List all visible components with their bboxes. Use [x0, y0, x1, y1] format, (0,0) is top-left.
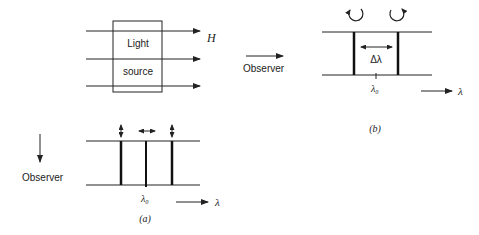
observer-label-a: Observer — [22, 172, 64, 183]
caption-b: (b) — [369, 123, 381, 135]
light-source-box — [113, 21, 162, 92]
lambda-axis-label-a: λ — [214, 196, 220, 208]
circular-polarization-ccw-icon — [349, 9, 363, 21]
longitudinal-spectrum-panel: Observer Δλ λ₀ λ (b) — [243, 9, 463, 135]
lambda0-label-a: λ₀ — [140, 193, 149, 204]
delta-lambda-label: Δλ — [370, 54, 382, 65]
zeeman-effect-diagram: Light source H Observer λ₀ λ (a) Observe… — [0, 0, 479, 235]
transverse-spectrum-panel: Observer λ₀ λ (a) — [22, 125, 220, 225]
lambda-axis-label-b: λ — [457, 85, 463, 97]
light-source-panel: Light source H — [86, 21, 217, 92]
circular-polarization-cw-icon — [390, 9, 404, 21]
box-label-light: Light — [127, 38, 149, 49]
box-label-source: source — [123, 66, 153, 77]
lambda0-label-b: λ₀ — [370, 83, 379, 94]
caption-a: (a) — [139, 213, 151, 225]
observer-label-b: Observer — [243, 63, 285, 74]
field-label-h: H — [206, 31, 217, 45]
